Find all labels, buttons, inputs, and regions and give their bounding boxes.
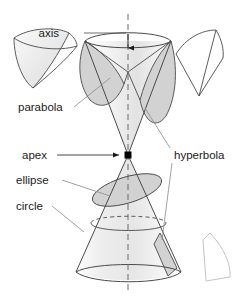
leader-line-hyperbola-lower: [162, 163, 172, 240]
conic-sections-figure: axis parabola apex ellipse circle hyperb…: [0, 0, 239, 300]
conic-sections-diagram: axis parabola apex ellipse circle hyperb…: [0, 0, 239, 300]
label-ellipse: ellipse: [16, 174, 49, 186]
detached-hyperbola-piece-top: [176, 30, 223, 96]
label-hyperbola: hyperbola: [174, 149, 225, 161]
apex-marker: [125, 152, 132, 159]
label-apex: apex: [22, 149, 47, 161]
leader-line-circle: [52, 206, 84, 232]
detached-hyperbola-bottom-body: [203, 233, 230, 281]
detached-hyperbola-piece-bottom: [203, 233, 230, 281]
label-circle: circle: [16, 200, 43, 212]
detached-parabola-rim-right: [69, 33, 77, 46]
label-parabola: parabola: [18, 101, 63, 113]
label-axis: axis: [39, 27, 60, 39]
detached-hyperbola-top-body: [176, 54, 223, 96]
